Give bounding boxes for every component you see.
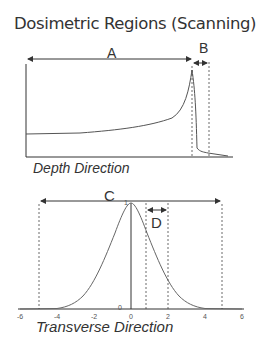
transverse-caption: Transverse Direction — [36, 318, 173, 335]
depth-caption: Depth Direction — [33, 160, 130, 176]
label-a: A — [107, 45, 116, 61]
x-tick: 6 — [240, 313, 244, 320]
x-tick: 4 — [203, 313, 207, 320]
transverse-chart — [18, 201, 244, 309]
x-tick: -6 — [17, 313, 23, 320]
label-b: B — [199, 40, 208, 56]
y-tick-1: 1 — [124, 199, 128, 206]
depth-chart — [26, 59, 233, 157]
depth-dose-curve — [26, 70, 228, 156]
y-tick-0: 0 — [118, 304, 122, 311]
label-d: D — [151, 214, 162, 231]
label-c: C — [104, 187, 115, 204]
